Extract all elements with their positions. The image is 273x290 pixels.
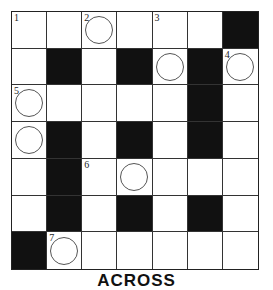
crossword-cell[interactable]	[47, 85, 82, 122]
crossword-cell[interactable]	[117, 159, 152, 196]
crossword-cell[interactable]	[117, 12, 152, 49]
crossword-cell[interactable]	[82, 196, 117, 233]
crossword-cell[interactable]: 7	[47, 232, 82, 269]
black-cell	[117, 196, 152, 233]
crossword-cell[interactable]	[82, 85, 117, 122]
crossword-cell[interactable]: 4	[223, 49, 258, 86]
crossword-cell[interactable]	[12, 159, 47, 196]
crossword-cell[interactable]	[82, 122, 117, 159]
black-cell	[117, 49, 152, 86]
black-cell	[223, 12, 258, 49]
crossword-cell[interactable]	[82, 49, 117, 86]
circle-marker-icon	[120, 163, 148, 191]
crossword-cell[interactable]	[153, 85, 188, 122]
circle-marker-icon	[15, 126, 43, 154]
crossword-cell[interactable]	[82, 232, 117, 269]
clue-number: 6	[84, 159, 89, 170]
crossword-cell[interactable]	[153, 49, 188, 86]
crossword-cell[interactable]	[223, 122, 258, 159]
crossword-cell[interactable]	[12, 49, 47, 86]
black-cell	[188, 196, 223, 233]
clue-number: 4	[225, 49, 230, 60]
crossword-cell[interactable]: 5	[12, 85, 47, 122]
crossword-cell[interactable]	[153, 196, 188, 233]
black-cell	[188, 49, 223, 86]
crossword-cell[interactable]: 1	[12, 12, 47, 49]
crossword-cell[interactable]	[153, 232, 188, 269]
black-cell	[188, 85, 223, 122]
circle-marker-icon	[226, 53, 254, 81]
crossword-cell[interactable]	[188, 159, 223, 196]
clue-number: 2	[84, 12, 89, 23]
clue-number: 7	[49, 232, 54, 243]
black-cell	[188, 122, 223, 159]
crossword-cell[interactable]	[117, 85, 152, 122]
crossword-cell[interactable]: 3	[153, 12, 188, 49]
black-cell	[47, 49, 82, 86]
crossword-cell[interactable]: 6	[82, 159, 117, 196]
circle-marker-icon	[85, 16, 113, 44]
crossword-grid: 1234567	[11, 11, 259, 270]
crossword-cell[interactable]	[223, 159, 258, 196]
circle-marker-icon	[156, 53, 184, 81]
crossword-cell[interactable]	[223, 85, 258, 122]
black-cell	[47, 196, 82, 233]
crossword-cell[interactable]	[188, 12, 223, 49]
black-cell	[47, 122, 82, 159]
crossword-cell[interactable]	[188, 232, 223, 269]
black-cell	[12, 232, 47, 269]
crossword-cell[interactable]	[153, 159, 188, 196]
clue-number: 1	[14, 12, 19, 23]
crossword-cell[interactable]	[223, 232, 258, 269]
crossword-cell[interactable]	[47, 12, 82, 49]
clue-number: 3	[155, 12, 160, 23]
circle-marker-icon	[50, 237, 78, 265]
across-heading: ACROSS	[0, 271, 273, 290]
crossword-cell[interactable]	[117, 232, 152, 269]
crossword-cell[interactable]	[153, 122, 188, 159]
black-cell	[47, 159, 82, 196]
crossword-cell[interactable]: 2	[82, 12, 117, 49]
crossword-cell[interactable]	[223, 196, 258, 233]
clue-number: 5	[14, 85, 19, 96]
black-cell	[117, 122, 152, 159]
crossword-cell[interactable]	[12, 122, 47, 159]
crossword-cell[interactable]	[12, 196, 47, 233]
circle-marker-icon	[15, 89, 43, 117]
